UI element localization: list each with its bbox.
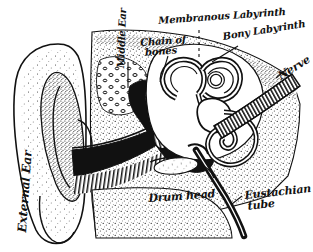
ear-anatomy-figure: Membranous Labyrinth Bony Labyrinth Chai…: [0, 0, 313, 252]
label-middle-ear: Middle Ear: [116, 8, 128, 68]
label-chain-of-bones: Chain of bones: [140, 35, 187, 59]
